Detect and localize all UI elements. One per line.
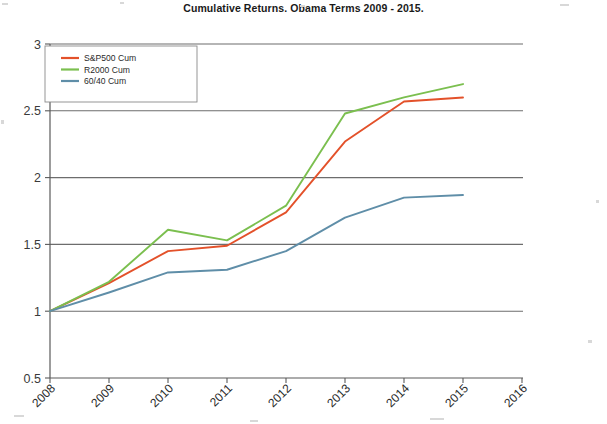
x-tick-label: 2009 [88, 381, 117, 410]
x-tick-label: 2014 [383, 381, 412, 410]
chart-container: Cumulative Returns. Obama Terms 2009 - 2… [0, 0, 607, 424]
y-tick-label: 2.5 [24, 104, 41, 118]
x-tick-label: 2016 [501, 381, 530, 410]
legend-label: R2000 Cum [84, 65, 130, 75]
x-axis-tick-labels: 200820092010201120122013201420152016 [29, 381, 530, 410]
x-tick-label: 2013 [324, 381, 353, 410]
legend-label: 60/40 Cum [84, 76, 126, 86]
x-tick-label: 2012 [265, 381, 294, 410]
data-series-group [50, 84, 463, 311]
y-tick-label: 3 [34, 38, 41, 52]
y-tick-label: 1.5 [24, 238, 41, 252]
y-tick-label: 2 [34, 171, 41, 185]
x-tick-label: 2011 [207, 381, 235, 409]
series-line-60-40-cum [50, 195, 463, 311]
x-tick-marks-group [50, 378, 522, 383]
y-axis-tick-labels: 0.511.522.53 [24, 38, 41, 386]
x-tick-label: 2010 [147, 381, 176, 410]
legend-label: S&P500 Cum [84, 53, 136, 63]
y-tick-label: 0.5 [24, 372, 41, 386]
x-tick-label: 2015 [442, 381, 471, 410]
chart-legend: S&P500 CumR2000 Cum60/40 Cum [45, 46, 197, 102]
line-chart-plot: 0.511.522.53 200820092010201120122013201… [0, 0, 607, 424]
y-tick-label: 1 [34, 305, 41, 319]
